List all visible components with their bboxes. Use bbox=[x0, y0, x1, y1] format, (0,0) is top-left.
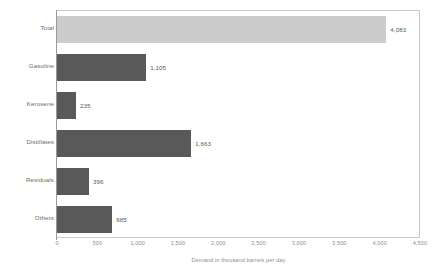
bar-kerosene[interactable] bbox=[57, 92, 76, 119]
bar-value-label: 1,105 bbox=[150, 64, 166, 71]
category-label-others: Others bbox=[0, 214, 54, 221]
bar-row: 1,663 bbox=[57, 124, 211, 162]
bar-value-label: 396 bbox=[93, 178, 104, 185]
bar-value-label: 1,663 bbox=[195, 140, 211, 147]
bar-value-label: 235 bbox=[80, 102, 91, 109]
bar-row: 396 bbox=[57, 162, 104, 200]
bar-row: 235 bbox=[57, 86, 91, 124]
bar-distillates[interactable] bbox=[57, 130, 191, 157]
bar-row: 1,105 bbox=[57, 48, 166, 86]
x-tick-label: 2,000 bbox=[211, 240, 226, 246]
bar-residuals[interactable] bbox=[57, 168, 89, 195]
bar-others[interactable] bbox=[57, 206, 112, 233]
bars-layer: 4,0831,1052351,663396685 bbox=[57, 10, 420, 238]
bar-value-label: 4,083 bbox=[390, 26, 406, 33]
category-label-kerosene: Kerosene bbox=[0, 100, 54, 107]
x-axis-ticks: 05001,0001,5002,0002,5003,0003,5004,0004… bbox=[57, 240, 420, 254]
bar-gasoline[interactable] bbox=[57, 54, 146, 81]
x-tick-label: 3,000 bbox=[292, 240, 307, 246]
x-tick-label: 4,000 bbox=[372, 240, 387, 246]
x-tick-label: 0 bbox=[55, 240, 58, 246]
category-label-distillates: Distillates bbox=[0, 138, 54, 145]
bar-row: 685 bbox=[57, 200, 127, 238]
bar-row: 4,083 bbox=[57, 10, 406, 48]
x-axis-title: Demand in thousand barrels per day bbox=[57, 257, 420, 263]
bar-value-label: 685 bbox=[116, 216, 127, 223]
bar-total[interactable] bbox=[57, 16, 386, 43]
x-tick-label: 4,500 bbox=[413, 240, 428, 246]
category-label-total: Total bbox=[0, 24, 54, 31]
x-tick-label: 1,000 bbox=[130, 240, 145, 246]
bar-chart: 4,0831,1052351,663396685 TotalGasolineKe… bbox=[0, 0, 436, 278]
x-tick-label: 3,500 bbox=[332, 240, 347, 246]
x-tick-label: 500 bbox=[93, 240, 103, 246]
x-tick-label: 1,500 bbox=[171, 240, 186, 246]
x-tick-label: 2,500 bbox=[251, 240, 266, 246]
category-label-gasoline: Gasoline bbox=[0, 62, 54, 69]
category-label-residuals: Residuals bbox=[0, 176, 54, 183]
